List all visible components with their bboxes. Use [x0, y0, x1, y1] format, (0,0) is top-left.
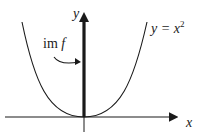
image-of-f-italic: f	[61, 36, 65, 51]
y-axis-label: y	[73, 7, 79, 21]
y-axis-arrowhead-icon	[79, 12, 89, 22]
curve-equation-lhs: y = x	[151, 21, 180, 36]
pointer-arrowhead-icon	[75, 58, 81, 65]
curve-equation-exponent: 2	[180, 19, 185, 29]
image-of-f-label: im f	[43, 37, 65, 51]
image-of-f-roman: im	[43, 36, 61, 51]
x-axis-label: x	[186, 116, 192, 130]
curve-equation-label: y = x2	[151, 20, 184, 36]
